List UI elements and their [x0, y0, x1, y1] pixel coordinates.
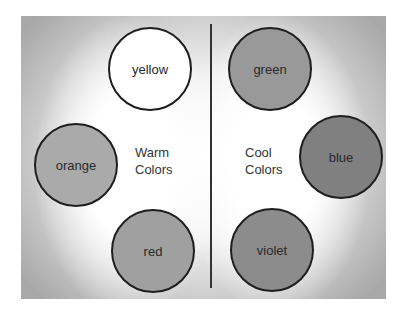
warm-cool-divider — [210, 24, 212, 288]
circle-label-yellow: yellow — [132, 62, 168, 77]
cool-colors-label: Cool Colors — [245, 144, 283, 178]
circle-label-red: red — [144, 244, 163, 259]
cool-label-line1: Cool — [245, 144, 283, 161]
circle-label-green: green — [253, 62, 286, 77]
warm-label-line2: Colors — [135, 161, 173, 178]
warm-label-line1: Warm — [135, 144, 173, 161]
warm-colors-label: Warm Colors — [135, 144, 173, 178]
circle-orange: orange — [34, 123, 118, 207]
cool-label-line2: Colors — [245, 161, 283, 178]
circle-label-orange: orange — [56, 158, 96, 173]
circle-yellow: yellow — [108, 27, 192, 111]
circle-red: red — [111, 209, 195, 293]
circle-green: green — [228, 27, 312, 111]
circle-violet: violet — [230, 208, 314, 292]
circle-label-blue: blue — [329, 150, 354, 165]
circle-blue: blue — [299, 115, 383, 199]
circle-label-violet: violet — [257, 243, 287, 258]
